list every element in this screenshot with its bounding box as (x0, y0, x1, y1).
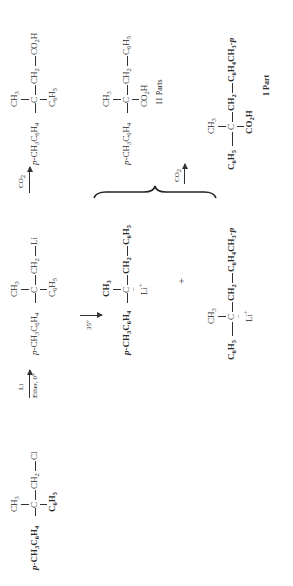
product-direct-center: C (30, 97, 39, 103)
intermediate-left: p-CH3C6H4 (30, 313, 41, 355)
intermediate-molecule: CH3 p-CH3C6H4 C CH2 Li C6H5 (8, 195, 58, 355)
salt-1-molecule: CH3 p-CH3C6H4 C CH2 C6H5 – Li+ (100, 195, 155, 355)
product2-ch3: CH3 (207, 118, 218, 134)
product2-center: C (227, 124, 236, 130)
product-direct-molecule: CH3 p-CH3C6H4 C CH2 CO2H C6H5 (8, 0, 58, 165)
salt1-left: p-CH3C6H4 (122, 311, 133, 355)
product1-ch3: CH3 (102, 91, 113, 107)
reactant-center: C (30, 502, 39, 508)
reactant-molecule: CH3 p-CH3C6H4 C CH2 Cl C6H5 (8, 390, 58, 570)
product-direct-c6h5: C6H5 (48, 88, 59, 107)
product1-left: p-CH3C6H4 (122, 123, 133, 165)
salt2-charge: – (235, 315, 242, 319)
product-direct-left: p-CH3C6H4 (30, 123, 41, 165)
salt2-ch3: CH3 (207, 308, 218, 324)
product2-co2h: CO2H (245, 110, 256, 134)
curly-brace (92, 184, 218, 200)
reactant-c6h5: C6H5 (48, 492, 59, 512)
intermediate-center: C (30, 287, 39, 293)
product-direct-co2h: CO2H (30, 33, 41, 55)
arrow-rearrangement-label: 35° (86, 320, 93, 330)
product-2-molecule: CH3 C6H5 C CH2 C6H4CH3-p CO2H 1 Part (205, 0, 280, 170)
salt1-c6h5: C6H5 (122, 225, 133, 245)
product2-ch2: CH2 (227, 94, 238, 111)
salt1-li: Li+ (138, 283, 149, 295)
reaction-scheme: CH3 p-CH3C6H4 C CH2 Cl C6H5 Li Ether, 0°… (0, 0, 293, 586)
salt2-right: C6H4CH3-p (227, 228, 238, 272)
intermediate-ch3: CH3 (10, 281, 21, 297)
intermediate-li: Li (30, 237, 39, 245)
salt2-li: Li+ (243, 310, 254, 322)
salt2-ch2: CH2 (227, 284, 238, 301)
plus-sign: + (176, 278, 187, 284)
product1-center: C (122, 97, 131, 103)
product1-c6h5: C6H5 (122, 36, 133, 55)
salt2-left: C6H5 (227, 340, 238, 360)
arrow2-reagent: CO2 (18, 175, 27, 188)
product-direct-ch2: CH2 (30, 68, 41, 84)
product2-ratio: 1 Part (263, 75, 271, 96)
product-direct-ch3: CH3 (10, 91, 21, 107)
arrow3-reagent: CO2 (174, 169, 183, 182)
salt-2-molecule: CH3 C6H5 C CH2 C6H4CH3-p – Li+ (205, 195, 260, 360)
reactant-ch3: CH3 (10, 496, 21, 512)
product1-co2h: CO2H (140, 85, 151, 107)
salt1-charge: – (130, 288, 137, 292)
intermediate-ch2: CH2 (30, 258, 41, 274)
salt1-ch2: CH2 (122, 257, 133, 274)
arrow1-conditions: Ether, 0° (32, 373, 39, 398)
reactant-left: p-CH3C6H4 (30, 526, 41, 570)
product2-left: C6H5 (227, 150, 238, 170)
product1-ratio: 11 Parts (156, 79, 164, 105)
arrow1-reagent: Li (18, 384, 25, 390)
product2-right: C6H4CH3-p (227, 38, 238, 82)
product-1-molecule: CH3 p-CH3C6H4 C CH2 C6H5 CO2H 11 Parts (100, 0, 170, 165)
salt1-ch3: CH3 (102, 280, 113, 297)
reactant-ch2: CH2 (30, 473, 41, 489)
intermediate-c6h5: C6H5 (48, 278, 59, 297)
product1-ch2: CH2 (122, 68, 133, 84)
reactant-cl: Cl (30, 451, 39, 460)
